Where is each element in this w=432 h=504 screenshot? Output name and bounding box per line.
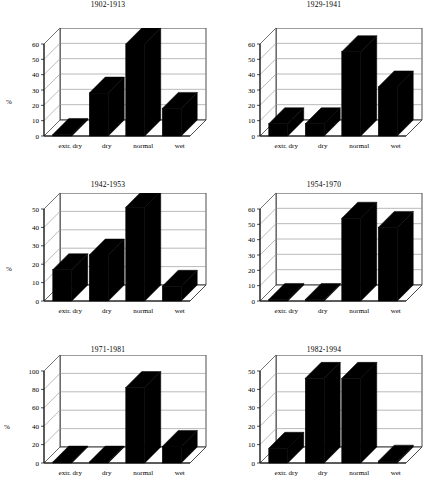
category-label: wet xyxy=(391,307,401,315)
svg-text:50: 50 xyxy=(248,368,256,376)
plot-area: 0102030405060extr. drydrynormalwet xyxy=(216,28,432,172)
svg-text:60: 60 xyxy=(32,404,40,412)
chart-panel-1971-1981: 1971-1981 % 020406080100extr. drydrynorm… xyxy=(0,345,216,504)
svg-text:10: 10 xyxy=(248,282,256,290)
svg-text:40: 40 xyxy=(248,71,256,79)
svg-text:0: 0 xyxy=(252,460,256,468)
chart-panel-1982-1994: 1982-1994 01020304050extr. drydrynormalw… xyxy=(216,345,432,504)
bar-chart-svg: 020406080100extr. drydrynormalwet xyxy=(0,355,216,495)
category-label: wet xyxy=(175,142,185,150)
category-label: normal xyxy=(133,469,153,477)
plot-area: 0102030405060extr. drydrynormalwet xyxy=(0,28,216,172)
category-label: normal xyxy=(349,469,369,477)
svg-text:80: 80 xyxy=(32,386,40,394)
svg-text:40: 40 xyxy=(32,224,40,232)
category-label: dry xyxy=(102,469,112,477)
svg-text:30: 30 xyxy=(248,404,256,412)
svg-text:30: 30 xyxy=(248,87,256,95)
svg-text:20: 20 xyxy=(32,261,40,269)
svg-text:0: 0 xyxy=(252,133,256,141)
bar-chart-svg: 0102030405060extr. drydrynormalwet xyxy=(0,28,216,168)
svg-text:100: 100 xyxy=(29,368,40,376)
category-label: dry xyxy=(318,142,328,150)
bar-chart-svg: 01020304050extr. drydrynormalwet xyxy=(216,355,432,495)
category-label: wet xyxy=(391,142,401,150)
category-label: dry xyxy=(318,469,328,477)
svg-text:30: 30 xyxy=(32,242,40,250)
chart-title: 1942-1953 xyxy=(0,180,216,190)
category-label: extr. dry xyxy=(275,307,299,315)
svg-text:10: 10 xyxy=(32,117,40,125)
chart-title: 1954-1970 xyxy=(216,180,432,190)
chart-grid: 1902-1913 % 0102030405060extr. drydrynor… xyxy=(0,0,432,504)
plot-area: 020406080100extr. drydrynormalwet xyxy=(0,355,216,499)
chart-panel-1942-1953: 1942-1953 % 01020304050extr. drydrynorma… xyxy=(0,180,216,345)
category-label: extr. dry xyxy=(275,142,299,150)
svg-text:40: 40 xyxy=(32,71,40,79)
category-label: extr. dry xyxy=(59,142,83,150)
svg-text:20: 20 xyxy=(248,267,256,275)
chart-title: 1971-1981 xyxy=(0,345,216,355)
category-label: normal xyxy=(133,142,153,150)
svg-text:20: 20 xyxy=(32,102,40,110)
svg-text:20: 20 xyxy=(248,423,256,431)
category-label: wet xyxy=(175,469,185,477)
svg-text:10: 10 xyxy=(248,441,256,449)
svg-text:0: 0 xyxy=(36,460,40,468)
category-label: wet xyxy=(391,469,401,477)
bar-chart-svg: 0102030405060extr. drydrynormalwet xyxy=(216,28,432,168)
chart-panel-1902-1913: 1902-1913 % 0102030405060extr. drydrynor… xyxy=(0,0,216,180)
svg-text:40: 40 xyxy=(32,423,40,431)
plot-area: 0102030405060extr. drydrynormalwet xyxy=(216,193,432,337)
chart-panel-1929-1941: 1929-1941 0102030405060extr. drydrynorma… xyxy=(216,0,432,180)
svg-text:0: 0 xyxy=(36,298,40,306)
svg-text:60: 60 xyxy=(248,206,256,214)
svg-text:10: 10 xyxy=(248,117,256,125)
chart-title: 1982-1994 xyxy=(216,345,432,355)
category-label: normal xyxy=(349,307,369,315)
category-label: dry xyxy=(102,142,112,150)
category-label: extr. dry xyxy=(59,307,83,315)
svg-text:40: 40 xyxy=(248,386,256,394)
svg-text:50: 50 xyxy=(248,56,256,64)
chart-panel-1954-1970: 1954-1970 0102030405060extr. drydrynorma… xyxy=(216,180,432,345)
bar-chart-svg: 0102030405060extr. drydrynormalwet xyxy=(216,193,432,333)
svg-text:60: 60 xyxy=(32,41,40,49)
svg-text:50: 50 xyxy=(32,206,40,214)
category-label: extr. dry xyxy=(275,469,299,477)
category-label: wet xyxy=(175,307,185,315)
category-label: normal xyxy=(349,142,369,150)
svg-text:0: 0 xyxy=(36,133,40,141)
svg-text:10: 10 xyxy=(32,279,40,287)
category-label: dry xyxy=(318,307,328,315)
svg-text:0: 0 xyxy=(252,298,256,306)
plot-area: 01020304050extr. drydrynormalwet xyxy=(216,355,432,499)
svg-text:50: 50 xyxy=(248,221,256,229)
svg-text:20: 20 xyxy=(32,441,40,449)
svg-text:30: 30 xyxy=(248,252,256,260)
bar-chart-svg: 01020304050extr. drydrynormalwet xyxy=(0,193,216,333)
category-label: extr. dry xyxy=(59,469,83,477)
svg-text:60: 60 xyxy=(248,41,256,49)
chart-title: 1902-1913 xyxy=(0,0,216,10)
category-label: dry xyxy=(102,307,112,315)
svg-text:30: 30 xyxy=(32,87,40,95)
chart-title: 1929-1941 xyxy=(216,0,432,10)
svg-text:20: 20 xyxy=(248,102,256,110)
plot-area: 01020304050extr. drydrynormalwet xyxy=(0,193,216,337)
category-label: normal xyxy=(133,307,153,315)
svg-text:40: 40 xyxy=(248,236,256,244)
svg-text:50: 50 xyxy=(32,56,40,64)
